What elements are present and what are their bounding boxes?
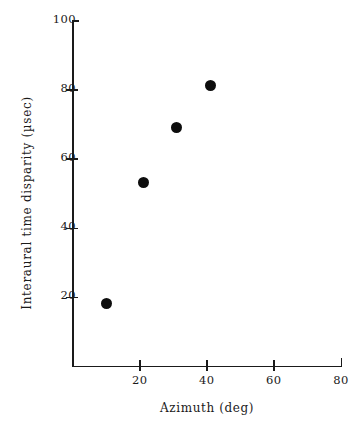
data-point [101,298,112,309]
x-tick-60 [273,360,275,371]
y-axis-title: Interaural time disparity (µsec) [20,83,34,323]
y-axis-line [72,20,74,367]
x-tick-label-20: 20 [120,375,160,387]
data-point [171,122,182,133]
x-tick-20 [139,360,141,371]
x-tick-label-60: 60 [254,375,294,387]
y-tick-label-60: 60 [30,152,76,164]
chart-figure: 100 80 60 40 20 20 40 60 80 Interaural t… [0,0,361,432]
y-tick-label-80: 80 [30,83,76,95]
plot-area: 100 80 60 40 20 20 40 60 80 [0,0,361,432]
data-point [205,80,216,91]
x-axis-title: Azimuth (deg) [72,401,342,415]
x-tick-80 [341,358,343,366]
x-tick-40 [206,360,208,371]
data-point [138,177,149,188]
y-tick-label-100: 100 [30,14,76,26]
x-tick-label-40: 40 [187,375,227,387]
x-tick-label-80: 80 [321,375,361,387]
y-tick-label-40: 40 [30,221,76,233]
x-tick-0 [72,358,74,366]
y-tick-label-20: 20 [30,290,76,302]
